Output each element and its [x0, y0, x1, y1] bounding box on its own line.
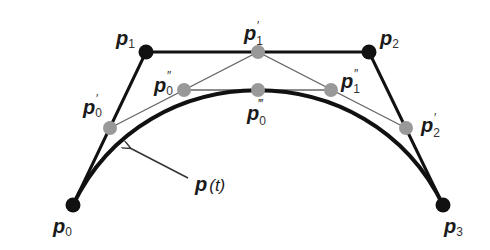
label-curve-pt: p(t) — [194, 173, 225, 195]
label-p1: p1 — [115, 27, 135, 51]
point-p0-prime — [103, 121, 117, 135]
point-p0 — [66, 198, 81, 213]
point-p1 — [139, 45, 154, 60]
label-p0-prime: p0 — [82, 96, 102, 120]
point-p1-dprime — [324, 83, 338, 97]
label-p0-tprime-mark: ‴ — [258, 97, 264, 111]
label-p1-dprime-mark: ″ — [354, 67, 359, 81]
label-p2-prime: p2 — [420, 114, 440, 140]
diagram-canvas: p1 p2 p1 ′ p0 ″ p1 ″ p0 ′ p2 ′ p0 ‴ p0 p… — [0, 0, 490, 250]
curve-pointer-arrow — [130, 148, 188, 178]
label-p3: p3 — [443, 215, 463, 239]
label-p1-prime-mark: ′ — [257, 19, 260, 33]
label-p0-dprime-mark: ″ — [167, 69, 172, 83]
bezier-diagram: p1 p2 p1 ′ p0 ″ p1 ″ p0 ′ p2 ′ p0 ‴ p0 p… — [0, 0, 490, 250]
control-polygon — [73, 52, 443, 205]
point-p2 — [362, 45, 377, 60]
point-p3 — [436, 198, 451, 213]
point-p0-tprime — [251, 83, 265, 97]
label-p0: p0 — [52, 215, 72, 239]
label-p0-prime-mark: ′ — [96, 92, 99, 106]
label-p1-prime: p1 — [243, 22, 263, 48]
label-p2: p2 — [379, 27, 399, 51]
point-p0-dprime — [177, 83, 191, 97]
point-p2-prime — [399, 121, 413, 135]
label-p2-prime-mark: ′ — [434, 111, 437, 125]
